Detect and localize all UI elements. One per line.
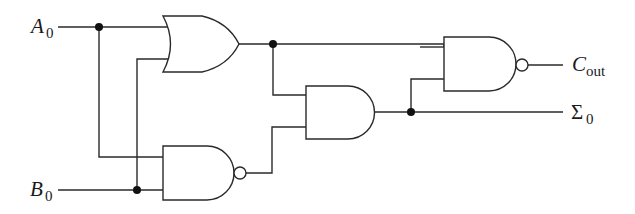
sigma0-sub: 0 (586, 111, 594, 127)
or-gate (163, 16, 239, 72)
wire-a0-to-nand (99, 27, 163, 157)
logic-circuit-diagram: A 0 B 0 (0, 0, 635, 214)
nand-body (444, 37, 516, 91)
input-label-b0: B 0 (30, 177, 53, 204)
sigma0-main: Σ (571, 100, 583, 124)
wire-or-to-and (273, 44, 306, 95)
junction-dot-a0 (95, 23, 103, 31)
nand-gate-top (444, 37, 528, 91)
junction-dot-sum (407, 108, 415, 116)
input-label-a0: A 0 (29, 14, 54, 41)
b0-sub: 0 (45, 188, 53, 204)
wire-sum-to-nand2 (411, 79, 444, 112)
wire-nand-to-and (245, 127, 306, 173)
cout-main: C (572, 52, 587, 76)
output-label-cout: C out (572, 52, 606, 79)
output-label-sigma0: Σ 0 (571, 100, 594, 127)
b0-main: B (30, 177, 43, 201)
circuit-canvas: A 0 B 0 (0, 0, 635, 214)
and-gate (306, 86, 375, 139)
cout-sub: out (586, 63, 606, 79)
inversion-bubble-icon (516, 59, 528, 71)
junction-dot-or-out (269, 40, 277, 48)
junction-dot-b0 (133, 186, 141, 194)
a0-sub: 0 (46, 25, 54, 41)
a0-main: A (29, 14, 44, 38)
nand-body (163, 146, 234, 200)
nand-gate-bottom (163, 146, 246, 200)
inversion-bubble-icon (234, 167, 246, 179)
